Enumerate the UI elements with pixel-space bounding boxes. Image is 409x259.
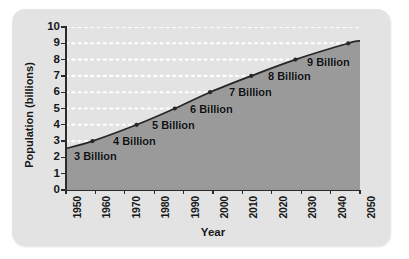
y-tick-mark: [61, 26, 65, 27]
y-tick-mark: [61, 108, 65, 109]
x-tick-mark: [242, 190, 243, 194]
data-point-label: 7 Billion: [229, 86, 272, 98]
y-tick-mark: [61, 157, 65, 158]
x-tick-label: 2050: [365, 196, 377, 219]
x-tick-mark: [95, 190, 96, 194]
x-tick-label: 2040: [336, 196, 348, 219]
y-tick-mark: [61, 92, 65, 93]
y-tick-mark: [61, 124, 65, 125]
y-tick-label: 10: [34, 21, 60, 32]
x-tick-label: 2010: [247, 196, 259, 219]
x-tick-mark: [359, 190, 360, 194]
y-axis-line: [65, 26, 67, 191]
y-tick-label: 4: [34, 119, 60, 130]
data-point-label: 5 Billion: [152, 119, 195, 131]
x-tick-label: 1960: [100, 196, 112, 219]
x-tick-label: 2020: [277, 196, 289, 219]
y-tick-mark: [61, 43, 65, 44]
chart-figure: Population (billions) 012345678910 19501…: [0, 0, 409, 259]
x-tick-label: 2000: [218, 196, 230, 219]
x-tick-mark: [183, 190, 184, 194]
data-point-label: 4 Billion: [113, 135, 156, 147]
y-tick-label: 2: [34, 151, 60, 162]
y-tick-label: 0: [34, 184, 60, 195]
data-point-label: 3 Billion: [74, 150, 117, 162]
x-axis-title: Year: [66, 226, 360, 238]
y-tick-label: 1: [34, 168, 60, 179]
y-tick-label: 9: [34, 37, 60, 48]
x-tick-mark: [124, 190, 125, 194]
x-tick-mark: [154, 190, 155, 194]
y-tick-label: 3: [34, 135, 60, 146]
y-tick-mark: [61, 75, 65, 76]
y-tick-label: 7: [34, 70, 60, 81]
y-tick-mark: [61, 59, 65, 60]
y-tick-label: 5: [34, 103, 60, 114]
y-tick-mark: [61, 173, 65, 174]
x-tick-label: 1990: [189, 196, 201, 219]
y-axis-tick-labels: 012345678910: [30, 0, 60, 259]
data-point-label: 9 Billion: [307, 56, 350, 68]
y-tick-mark: [61, 140, 65, 141]
x-tick-mark: [271, 190, 272, 194]
data-point-label: 8 Billion: [268, 70, 311, 82]
x-tick-mark: [65, 190, 66, 194]
data-point-label: 6 Billion: [190, 103, 233, 115]
x-tick-label: 1950: [71, 196, 83, 219]
y-tick-label: 6: [34, 86, 60, 97]
x-tick-label: 1970: [130, 196, 142, 219]
y-tick-label: 8: [34, 54, 60, 65]
x-tick-mark: [330, 190, 331, 194]
x-tick-mark: [301, 190, 302, 194]
x-tick-mark: [212, 190, 213, 194]
x-tick-label: 2030: [306, 196, 318, 219]
x-tick-label: 1980: [159, 196, 171, 219]
